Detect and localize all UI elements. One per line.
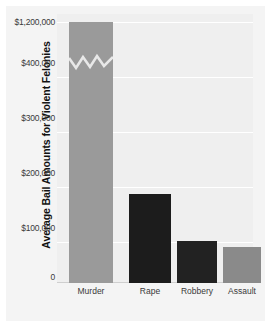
y-axis-tick-labels: $1,200,000 $400,000 $300,000 $200,000 $1… bbox=[0, 14, 55, 283]
x-axis-tick-label-murder: Murder bbox=[63, 286, 119, 296]
bar-robbery[interactable] bbox=[177, 241, 217, 283]
y-axis-tick-label: $200,000 bbox=[0, 168, 55, 178]
bar-murder[interactable] bbox=[69, 22, 113, 283]
y-axis-tick-label: $400,000 bbox=[0, 58, 55, 68]
y-axis-tick-label: 0 bbox=[0, 272, 55, 282]
bar-chart: Average Bail Amounts for Violent Felonie… bbox=[0, 0, 271, 333]
bar-rape[interactable] bbox=[129, 194, 171, 283]
x-axis-tick-label-assault: Assault bbox=[215, 286, 269, 296]
y-axis-tick-label: $1,200,000 bbox=[0, 17, 55, 27]
y-axis-tick-label: $100,000 bbox=[0, 223, 55, 233]
bar-assault[interactable] bbox=[223, 247, 261, 283]
y-axis-tick-label: $300,000 bbox=[0, 113, 55, 123]
plot-area bbox=[57, 14, 253, 283]
x-axis-tick-labels: Murder Rape Robbery Assault bbox=[57, 286, 253, 304]
axis-break-zigzag-icon bbox=[69, 52, 113, 72]
